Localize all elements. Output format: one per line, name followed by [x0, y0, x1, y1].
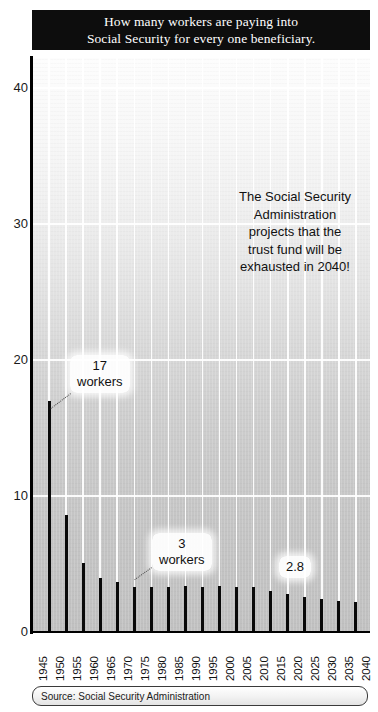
x-axis-tick-label: 1950: [54, 656, 66, 681]
bar: [184, 586, 187, 632]
callout-2-8: 2.8: [279, 556, 311, 578]
callout-value: 17: [77, 358, 123, 374]
bar: [99, 578, 102, 632]
x-axis-tick-label: 2025: [309, 656, 321, 681]
callout-value: 3: [159, 536, 205, 552]
annotation-line-5: exhausted in 2040!: [222, 258, 368, 276]
vertical-gridline: [270, 58, 272, 632]
bar: [269, 591, 272, 632]
chart-title-line-2: Social Security for every one beneficiar…: [87, 30, 315, 47]
bar: [252, 587, 255, 632]
y-axis-tick-label: 10: [2, 488, 28, 503]
x-axis-tick-label: 1985: [173, 656, 185, 681]
vertical-gridline: [338, 58, 340, 632]
vertical-gridline: [134, 58, 136, 632]
bar: [320, 599, 323, 632]
bar: [167, 587, 170, 632]
annotation-line-1: The Social Security: [222, 188, 368, 206]
x-axis-tick-label: 2000: [224, 656, 236, 681]
vertical-gridline: [82, 58, 84, 632]
y-axis-line: [30, 56, 33, 634]
y-axis-tick-label: 40: [2, 80, 28, 95]
x-axis-tick-label: 1995: [207, 656, 219, 681]
horizontal-gridline: [32, 495, 370, 497]
annotation-line-2: Administration: [222, 206, 368, 224]
x-axis-tick-label: 2010: [258, 656, 270, 681]
chart-title-line-1: How many workers are paying into: [104, 13, 298, 30]
x-axis-tick-label: 2015: [275, 656, 287, 681]
callout-3-workers: 3workers: [152, 533, 212, 571]
bar: [48, 401, 51, 632]
x-axis-tick-label: 1965: [105, 656, 117, 681]
x-axis-tick-label: 2005: [241, 656, 253, 681]
source-box: Source: Social Security Administration: [32, 686, 368, 706]
x-axis-line: [30, 631, 370, 633]
y-axis-tick-label: 30: [2, 216, 28, 231]
x-axis-tick-label: 2040: [360, 656, 372, 681]
bar: [150, 587, 153, 632]
bar: [133, 587, 136, 632]
x-axis-tick-label: 1975: [139, 656, 151, 681]
x-axis-tick-label: 2035: [343, 656, 355, 681]
chart-title-banner: How many workers are paying into Social …: [32, 10, 370, 50]
x-axis-tick-label: 1955: [71, 656, 83, 681]
y-axis-tick-labels: 010203040: [0, 0, 28, 712]
vertical-gridline: [236, 58, 238, 632]
x-axis-tick-label: 1960: [88, 656, 100, 681]
bar: [65, 515, 68, 632]
vertical-gridline: [287, 58, 289, 632]
x-axis-tick-labels: 1945195019551960196519701975198019851990…: [0, 634, 378, 688]
bar: [303, 597, 306, 632]
vertical-gridline: [304, 58, 306, 632]
bar: [354, 602, 357, 632]
bar: [337, 601, 340, 632]
bar: [218, 586, 221, 632]
y-axis-tick-label: 20: [2, 352, 28, 367]
bar: [82, 563, 85, 632]
vertical-gridline: [321, 58, 323, 632]
x-axis-tick-label: 1990: [190, 656, 202, 681]
x-axis-tick-label: 1980: [156, 656, 168, 681]
source-label: Source: Social Security Administration: [33, 691, 210, 702]
bar: [235, 587, 238, 632]
vertical-gridline: [219, 58, 221, 632]
callout-unit: workers: [77, 374, 123, 390]
projection-annotation: The Social Security Administration proje…: [222, 188, 368, 276]
vertical-gridline: [99, 58, 101, 632]
bar: [201, 587, 204, 632]
callout-unit: workers: [159, 552, 205, 568]
bar: [286, 594, 289, 632]
annotation-line-4: trust fund will be: [222, 241, 368, 259]
vertical-gridline: [253, 58, 255, 632]
callout-17-workers: 17workers: [70, 355, 130, 393]
annotation-line-3: projects that the: [222, 223, 368, 241]
x-axis-tick-label: 1970: [122, 656, 134, 681]
callout-value: 2.8: [286, 559, 304, 575]
horizontal-gridline: [32, 87, 370, 89]
x-axis-tick-label: 2020: [292, 656, 304, 681]
vertical-gridline: [355, 58, 357, 632]
bar: [116, 582, 119, 632]
vertical-gridline: [116, 58, 118, 632]
x-axis-tick-label: 1945: [37, 656, 49, 681]
x-axis-tick-label: 2030: [326, 656, 338, 681]
